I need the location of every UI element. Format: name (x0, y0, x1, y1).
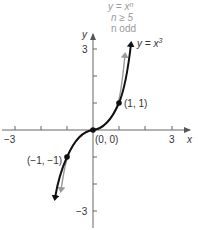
point-0-0 (90, 127, 96, 133)
y-tick-3: 3 (82, 44, 88, 55)
y-axis-label: y (81, 29, 88, 40)
label-point-0-0: (0, 0) (95, 134, 118, 145)
point-1-1 (116, 100, 122, 106)
label-point-1-1: (1, 1) (124, 98, 147, 109)
legend-xn-line1: y = xn (107, 1, 133, 12)
y-tick-neg3: −3 (76, 206, 88, 217)
point-neg1-neg1 (64, 154, 70, 160)
label-point-neg1: (−1, −1) (27, 155, 62, 166)
x-tick-3: 3 (169, 134, 175, 145)
chart-canvas: y = xn n ≥ 5 n odd y = x3 y 3 −3 −3 3 x … (0, 0, 198, 230)
legend-xn-line3: n odd (111, 23, 136, 34)
legend-x3: y = x3 (136, 37, 162, 49)
x-axis-label: x (186, 134, 193, 145)
legend-xn-line2: n ≥ 5 (111, 12, 134, 23)
x-tick-neg3: −3 (4, 134, 16, 145)
